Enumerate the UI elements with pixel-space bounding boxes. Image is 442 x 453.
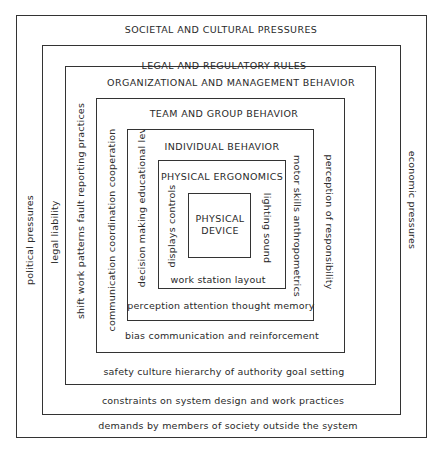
societal-right-label: economic pressures — [407, 151, 417, 249]
legal-left-label: legal liability — [50, 200, 60, 263]
societal-title: SOCIETAL AND CULTURAL PRESSURES — [125, 25, 318, 35]
ergonomics-right-label: lighting sound — [262, 193, 272, 263]
individual-right-label: motor skills anthropometrics — [292, 155, 302, 297]
individual-bottom-label: perception attention thought memory — [127, 301, 314, 311]
device-title-line1: PHYSICAL — [195, 214, 244, 224]
organizational-left-label: shift work patterns fault reporting prac… — [76, 103, 86, 319]
team-left-label: communication coordination cooperation — [107, 128, 117, 331]
ergonomics-left-label: displays controls — [167, 185, 177, 268]
societal-left-label: political pressures — [25, 195, 35, 285]
organizational-bottom-label: safety culture hierarchy of authority go… — [103, 367, 344, 377]
legal-title: LEGAL AND REGULATORY RULES — [142, 61, 307, 71]
team-title: TEAM AND GROUP BEHAVIOR — [150, 109, 299, 119]
societal-bottom-label: demands by members of society outside th… — [98, 421, 357, 431]
organizational-title: ORGANIZATIONAL AND MANAGEMENT BEHAVIOR — [107, 78, 355, 88]
individual-title: INDIVIDUAL BEHAVIOR — [165, 142, 280, 152]
ergonomics-bottom-label: work station layout — [170, 275, 265, 285]
legal-bottom-label: constraints on system design and work pr… — [102, 396, 344, 406]
individual-left-clip: decision making educational level — [128, 130, 158, 300]
team-bottom-label: bias communication and reinforcement — [125, 331, 319, 341]
organizational-right-label: perception of responsibility — [324, 155, 334, 290]
ergonomics-title: PHYSICAL ERGONOMICS — [161, 172, 283, 182]
device-title-line2: DEVICE — [201, 226, 239, 236]
individual-left-label: decision making educational level — [137, 130, 147, 287]
